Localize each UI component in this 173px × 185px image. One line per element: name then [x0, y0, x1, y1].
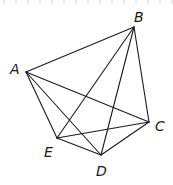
point-label-b: B — [134, 9, 144, 25]
segment-ad — [26, 72, 101, 155]
point-label-d: D — [96, 163, 107, 179]
segments — [26, 27, 149, 155]
segment-ae — [26, 72, 57, 138]
geometry-diagram: ABCDE — [0, 0, 173, 185]
point-label-a: A — [9, 61, 20, 77]
segment-ed — [57, 138, 101, 155]
top-tick-marks — [4, 0, 172, 4]
segment-ce — [57, 122, 149, 138]
point-label-c: C — [155, 118, 165, 134]
segment-be — [57, 27, 134, 138]
segment-ac — [26, 72, 149, 122]
point-label-e: E — [44, 144, 53, 160]
segment-bc — [134, 27, 149, 122]
